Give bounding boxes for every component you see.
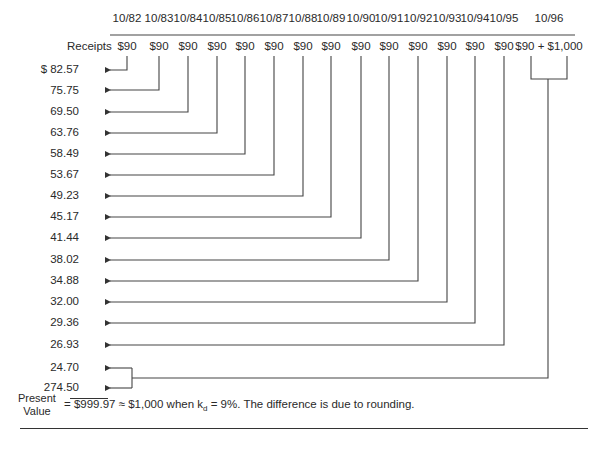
present-value-total: $999.97 xyxy=(74,398,116,410)
present-value-equation: = $999.97 ≈ $1,000 when kd = 9%. The dif… xyxy=(64,398,415,413)
equals-sign: = xyxy=(64,398,71,410)
footer-divider xyxy=(20,428,588,429)
present-value-label-line2: Value xyxy=(18,405,56,418)
present-value-label: Present Value xyxy=(18,392,56,418)
approx-text: ≈ $1,000 when k xyxy=(119,398,203,410)
present-value-label-line1: Present xyxy=(18,392,56,405)
rate-text: = 9%. The difference is due to rounding. xyxy=(207,398,414,410)
discount-connector-lines xyxy=(0,0,609,450)
